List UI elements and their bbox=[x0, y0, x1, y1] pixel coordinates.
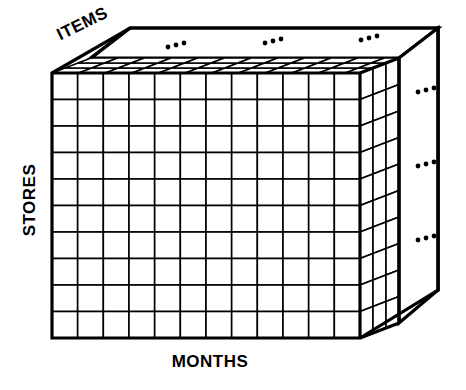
front-face-grid bbox=[52, 73, 360, 338]
data-cube-figure: .cell { fill:#ffffff; stroke:#000000; st… bbox=[0, 0, 466, 390]
cube-drawing: .cell { fill:#ffffff; stroke:#000000; st… bbox=[0, 0, 466, 390]
axis-label-stores: STORES bbox=[20, 140, 40, 260]
top-face-grid bbox=[52, 58, 411, 73]
axis-label-months: MONTHS bbox=[0, 352, 420, 372]
right-face-grid bbox=[360, 58, 399, 338]
